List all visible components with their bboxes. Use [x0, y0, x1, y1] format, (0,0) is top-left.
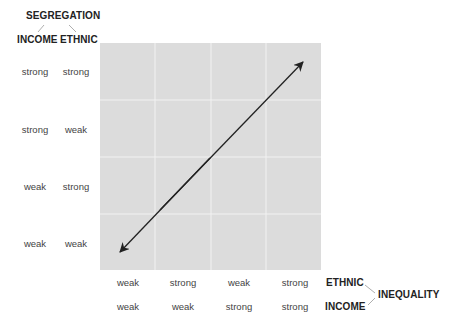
row-3-income-label: weak	[24, 181, 46, 192]
col-1-ethnic-label: weak	[117, 277, 139, 288]
col-4-ethnic-label: strong	[282, 277, 308, 288]
row-4-ethnic-label: weak	[65, 238, 87, 249]
row-1-ethnic-label: strong	[63, 66, 89, 77]
segregation-connectors	[38, 25, 76, 32]
col-2-ethnic-label: strong	[170, 277, 196, 288]
diagram-overlay	[0, 0, 449, 328]
col-1-income-label: weak	[117, 301, 139, 312]
inequality-ethnic-header: ETHNIC	[326, 277, 364, 288]
row-4-income-label: weak	[24, 238, 46, 249]
inequality-income-header: INCOME	[325, 301, 366, 312]
col-3-income-label: strong	[226, 301, 252, 312]
inequality-connectors	[365, 285, 375, 305]
col-2-income-label: weak	[172, 301, 194, 312]
row-2-ethnic-label: weak	[65, 124, 87, 135]
row-2-income-label: strong	[22, 124, 48, 135]
col-4-income-label: strong	[282, 301, 308, 312]
row-1-income-label: strong	[22, 66, 48, 77]
row-3-ethnic-label: strong	[63, 181, 89, 192]
double-headed-arrow-lower	[120, 158, 210, 252]
col-3-ethnic-label: weak	[228, 277, 250, 288]
inequality-title: INEQUALITY	[378, 289, 440, 300]
